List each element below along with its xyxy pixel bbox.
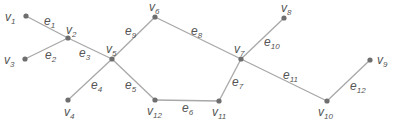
node-label-v6: v6 — [149, 0, 160, 16]
node-label-v11: v11 — [212, 105, 226, 121]
edge-label-e9: e9 — [125, 24, 137, 40]
node-label-v9: v9 — [377, 53, 388, 69]
edge-e4 — [68, 59, 112, 100]
node-v9 — [367, 57, 372, 62]
node-label-v7: v7 — [234, 42, 245, 58]
node-label-v4: v4 — [64, 105, 75, 121]
edge-label-e7: e7 — [232, 75, 244, 91]
node-v8 — [281, 15, 286, 20]
node-v1 — [23, 13, 28, 18]
edge-label-e4: e4 — [91, 78, 103, 94]
node-label-v12: v12 — [147, 104, 162, 120]
edge-label-e11: e11 — [283, 68, 298, 84]
node-label-v2: v2 — [66, 23, 77, 39]
node-v12 — [152, 97, 157, 102]
node-label-v5: v5 — [106, 42, 117, 58]
edge-label-e10: e10 — [264, 35, 280, 51]
node-label-v10: v10 — [318, 105, 333, 121]
node-v4 — [65, 97, 70, 102]
node-label-v8: v8 — [281, 1, 292, 17]
edge-label-e1: e1 — [44, 14, 55, 30]
graph-diagram: e1e2e3e4e5e6e7e8e9e10e11e12v1v2v3v4v5v6v… — [0, 0, 397, 124]
node-label-v3: v3 — [4, 53, 15, 69]
node-v11 — [216, 98, 221, 103]
node-label-v1: v1 — [5, 10, 15, 26]
labels-layer: e1e2e3e4e5e6e7e8e9e10e11e12v1v2v3v4v5v6v… — [4, 0, 388, 121]
edge-label-e2: e2 — [45, 48, 57, 64]
edge-label-e6: e6 — [182, 101, 194, 117]
node-v3 — [22, 56, 27, 61]
edge-e10 — [241, 18, 284, 59]
edge-label-e12: e12 — [350, 79, 366, 95]
edge-label-e8: e8 — [191, 24, 203, 40]
node-v10 — [324, 98, 329, 103]
